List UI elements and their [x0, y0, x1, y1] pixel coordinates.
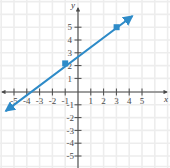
y-tick-label: -3: [67, 126, 75, 136]
x-tick-label: -2: [49, 96, 57, 106]
graph-canvas: -5 -4 -3 -2 -1 1 2 3 4 5 x: [0, 0, 170, 168]
y-tick-label: -4: [67, 138, 75, 148]
y-tick-label: -2: [67, 113, 75, 123]
x-tick-label: 1: [89, 96, 94, 106]
y-tick-label: 5: [68, 22, 73, 32]
y-tick-label: 3: [68, 48, 73, 58]
x-tick-label: 3: [114, 96, 119, 106]
x-axis-label: x: [163, 94, 168, 104]
y-tick-label: -1: [67, 100, 75, 110]
coordinate-plane-graph: -5 -4 -3 -2 -1 1 2 3 4 5 x: [0, 0, 170, 168]
y-tick-label: -5: [67, 151, 75, 161]
x-tick-label: 4: [127, 96, 132, 106]
x-tick-label: -3: [36, 96, 44, 106]
y-axis-label: y: [70, 0, 75, 10]
x-tick-label: 2: [101, 96, 106, 106]
y-tick-label: 1: [68, 74, 73, 84]
y-tick-label: 4: [68, 35, 73, 45]
data-point-marker: [114, 24, 120, 30]
data-point-marker: [62, 60, 68, 66]
x-tick-label: 5: [140, 96, 145, 106]
